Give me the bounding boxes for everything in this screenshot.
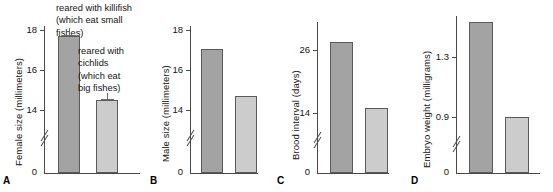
panel-a-tick-16 — [40, 70, 45, 71]
panel-a-tick-label-14: 14 — [16, 104, 37, 115]
panel-d-tick-label-0-9: 0.9 — [424, 111, 449, 122]
panel-a: Female size (millimeters) 18 16 14 0 A r… — [0, 0, 148, 192]
panel-c-bar-cichlids — [365, 108, 388, 173]
annotation-cichlids-leader-cap — [101, 99, 114, 100]
panel-c-bar-killifish — [330, 42, 353, 173]
panel-c-y-axis-line — [317, 22, 318, 173]
panel-d-y-axis-title: Embryo weight (milligrams) — [421, 51, 432, 168]
panel-b-tick-label-0: 0 — [162, 166, 183, 177]
panel-a-tick-18 — [40, 30, 45, 31]
panel-c-tick-26 — [313, 50, 318, 51]
panel-letter-b: B — [150, 175, 157, 186]
panel-c-x-axis-line — [317, 173, 389, 174]
panel-b: Male size (millimeters) 18 16 14 0 B — [148, 0, 260, 192]
annotation-killifish-leader-cap — [63, 35, 76, 36]
panel-d-axis-break — [450, 136, 463, 152]
panel-a-bar-killifish — [58, 36, 80, 173]
panel-c-tick-14 — [313, 113, 318, 114]
panel-d-tick-1-3 — [452, 57, 457, 58]
panel-a-bar-cichlids — [96, 100, 118, 173]
panel-c-tick-label-14: 14 — [289, 107, 310, 118]
panel-a-y-axis-line — [44, 26, 45, 173]
panel-b-bar-killifish — [201, 49, 223, 173]
panel-c-axis-break — [311, 132, 324, 148]
panel-b-tick-label-16: 16 — [162, 64, 183, 75]
panel-a-tick-label-16: 16 — [16, 64, 37, 75]
panel-letter-a: A — [3, 175, 10, 186]
panel-a-x-axis-line — [44, 173, 140, 174]
panel-a-tick-14 — [40, 110, 45, 111]
panel-a-tick-label-18: 18 — [16, 24, 37, 35]
panel-d: Embryo weight (milligrams) 1.3 0.9 0 D — [392, 0, 553, 192]
panel-b-x-axis-line — [190, 173, 258, 174]
panel-b-y-axis-line — [190, 26, 191, 173]
panel-b-tick-label-18: 18 — [162, 24, 183, 35]
panel-a-tick-label-0: 0 — [16, 166, 37, 177]
panel-a-axis-break — [38, 130, 51, 146]
panel-c-tick-label-0: 0 — [289, 166, 310, 177]
panel-d-tick-label-1-3: 1.3 — [424, 51, 449, 62]
panel-b-tick-16 — [186, 70, 191, 71]
panel-c-tick-label-26: 26 — [289, 44, 310, 55]
panel-d-bar-killifish — [469, 22, 493, 173]
panel-b-tick-label-14: 14 — [162, 104, 183, 115]
annotation-cichlids: reared with cichlids (which eat big fish… — [78, 45, 148, 95]
panel-b-axis-break — [184, 130, 197, 146]
panel-b-bar-cichlids — [235, 96, 257, 173]
panel-d-bar-cichlids — [505, 117, 529, 173]
panel-d-x-axis-line — [456, 173, 540, 174]
panel-letter-c: C — [277, 175, 284, 186]
panel-letter-d: D — [411, 175, 418, 186]
panel-d-tick-0-9 — [452, 117, 457, 118]
panel-c: Brood interval (days) 26 14 0 C — [260, 0, 392, 192]
panel-b-tick-18 — [186, 30, 191, 31]
panel-d-tick-label-0: 0 — [424, 166, 449, 177]
panel-b-tick-14 — [186, 110, 191, 111]
figure-bar-chart-panels: Female size (millimeters) 18 16 14 0 A r… — [0, 0, 553, 192]
